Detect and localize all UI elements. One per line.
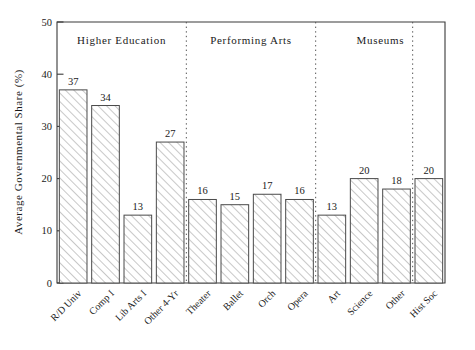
bar-value-labels: 373413271615171613201820 [68,76,434,212]
bar [318,215,346,283]
y-axis-title: Average Governmental Share (%) [12,69,25,235]
bar [124,215,152,283]
bar-chart: 0 10 20 30 40 50 Averag [0,0,475,350]
y-tick-label-10: 10 [42,225,53,236]
bar [156,142,184,283]
y-tick-label-30: 30 [42,121,53,132]
bar-value-label: 20 [359,165,370,176]
category-label: Art [325,287,342,304]
bar [415,179,443,283]
category-label: Orch [256,288,278,310]
bar [221,205,249,283]
bar [92,106,120,283]
y-tick-label-40: 40 [42,69,53,80]
bar-value-label: 16 [197,185,208,196]
y-tick-50: 50 [42,17,64,28]
bar [350,179,378,283]
group-header: Museums [356,34,404,46]
group-headers: Higher EducationPerforming ArtsMuseums [77,34,404,46]
y-tick-label-50: 50 [42,17,53,28]
group-header: Performing Arts [210,34,292,46]
category-label: Hist Soc [407,287,439,319]
bar-value-label: 13 [133,201,144,212]
bar-value-label: 37 [68,76,79,87]
category-label: Comp I [87,288,116,317]
bar-value-label: 34 [100,92,111,103]
bar [383,189,411,283]
group-header: Higher Education [77,34,166,46]
chart-canvas: 0 10 20 30 40 50 Averag [0,0,475,350]
category-label: R/D Univ [48,288,83,323]
bar [286,199,314,283]
bar [59,90,87,283]
category-label: Opera [285,287,310,312]
bar-value-label: 16 [294,185,305,196]
y-tick-label-20: 20 [42,173,53,184]
bar-value-label: 27 [165,128,176,139]
bars-layer [59,90,442,283]
category-label: Science [345,287,375,317]
category-label: Other [383,287,407,311]
bar-value-label: 15 [230,191,241,202]
bar [189,199,217,283]
category-label: Other 4-Yr [142,287,181,326]
y-tick-label-0: 0 [47,278,52,289]
category-label: Theater [184,287,214,317]
bar [253,194,281,283]
bar-value-label: 18 [391,175,402,186]
category-label: Ballet [221,287,246,312]
category-labels: R/D UnivComp ILib Arts IOther 4-YrTheate… [48,287,440,326]
bar-value-label: 13 [327,201,338,212]
y-tick-40: 40 [42,69,64,80]
bar-value-label: 20 [424,165,435,176]
bar-value-label: 17 [262,180,273,191]
